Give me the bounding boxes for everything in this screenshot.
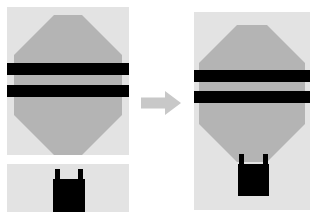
composition-canvas [0, 0, 317, 218]
source-basket-panel [7, 164, 129, 212]
balloon-basket-shape [238, 164, 269, 196]
envelope-stripe-lower [7, 85, 129, 97]
transform-arrow [141, 91, 181, 115]
source-envelope-panel [7, 7, 129, 155]
envelope-stripe-upper [194, 70, 310, 82]
envelope-stripe-lower [194, 91, 310, 103]
result-composite-panel [194, 12, 310, 210]
basket-riser-left [239, 154, 244, 165]
basket-riser-right [263, 154, 268, 165]
basket-riser-left [55, 169, 60, 180]
envelope-stripe-upper [7, 63, 129, 75]
balloon-basket-shape [53, 179, 85, 212]
arrow-right-icon [141, 91, 181, 115]
basket-riser-right [78, 169, 83, 180]
